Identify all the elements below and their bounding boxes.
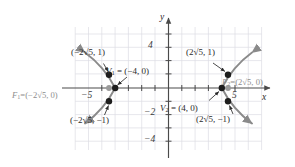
label-point-lower-left: (−2√5, −1) — [70, 116, 109, 125]
point-vertex-left — [112, 85, 118, 91]
label-vertex-right: V2 = (4, 0) — [160, 104, 198, 114]
label-vertex-left: V1 = (−4, 0) — [106, 67, 149, 77]
y-tick-label-4: 4 — [148, 41, 153, 51]
label-point-upper-left: (−2√5, 1) — [71, 48, 105, 57]
x-tick-label-neg5: −5 — [81, 91, 92, 101]
leader-vertex-right — [209, 92, 219, 101]
label-point-lower-right: (2√5, −1) — [196, 115, 230, 124]
y-tick-label-neg4: −4 — [144, 135, 155, 145]
focus-right-coords: =(2√5, 0) — [230, 77, 262, 87]
axis-lines — [62, 18, 270, 158]
vertex-right-coords: = (4, 0) — [169, 103, 198, 113]
x-axis-label: x — [262, 93, 266, 103]
leader-lower-left — [105, 106, 109, 116]
label-focus-right: F2=(2√5, 0) — [222, 78, 263, 88]
focus-left-coords: =(−2√5, 0) — [20, 90, 57, 100]
x-tick-label-5: 5 — [232, 91, 237, 101]
leader-lower-right — [230, 106, 234, 115]
label-focus-left: F1=(−2√5, 0) — [12, 91, 58, 101]
point-lower-right — [225, 98, 231, 104]
hyperbola-figure: 4 −2 −4 −5 5 y x (−2√5, 1) (−2√5, −1) (2… — [0, 0, 295, 167]
vertex-left-coords: = (−4, 0) — [115, 66, 149, 76]
point-focus-left — [106, 85, 112, 91]
label-point-upper-right: (2√5, 1) — [186, 48, 215, 57]
y-axis-label: y — [160, 13, 164, 23]
leader-upper-right — [213, 63, 225, 72]
leader-vertex-left — [118, 77, 128, 85]
y-tick-label-neg2: −2 — [144, 108, 155, 118]
point-lower-left — [106, 98, 112, 104]
